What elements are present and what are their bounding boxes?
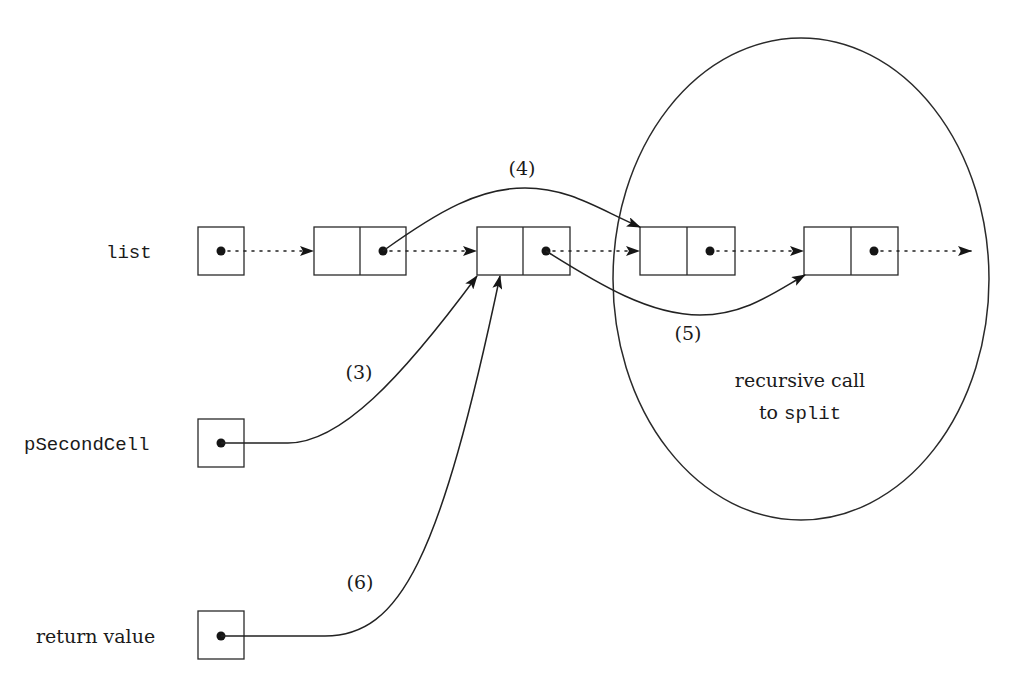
return-value-label: return value bbox=[36, 625, 155, 647]
step-label-5: (5) bbox=[675, 322, 702, 344]
pointer-dot-icon bbox=[870, 247, 879, 256]
psecondcell-label: pSecondCell bbox=[24, 434, 149, 456]
split-diagram: list pSecondCell return value bbox=[0, 0, 1013, 691]
recursive-call-ellipse bbox=[613, 38, 989, 520]
recursive-to-prefix: to bbox=[759, 401, 784, 423]
pointer-dot-icon bbox=[217, 247, 226, 256]
list-cell-3 bbox=[640, 227, 735, 275]
recursive-call-label: recursive call bbox=[735, 369, 865, 391]
arrow-step-3 bbox=[221, 276, 477, 443]
list-cell-4 bbox=[804, 227, 898, 275]
list-label: list bbox=[106, 242, 152, 264]
step-label-3: (3) bbox=[346, 361, 373, 383]
split-function-name: split bbox=[784, 403, 841, 425]
recursive-call-target: to split bbox=[759, 401, 841, 425]
step-label-6: (6) bbox=[347, 571, 374, 593]
step-label-4: (4) bbox=[509, 157, 536, 179]
list-cell-2 bbox=[477, 227, 570, 275]
return-value-pointer-box bbox=[198, 611, 244, 659]
pointer-dot-icon bbox=[706, 247, 715, 256]
